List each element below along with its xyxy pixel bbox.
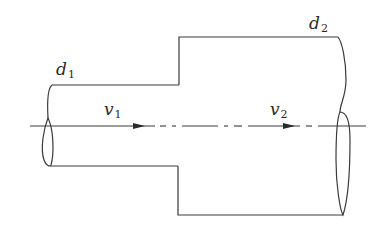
- v1-arrowhead-icon: [133, 123, 145, 129]
- label-d1-symbol: d: [56, 59, 67, 79]
- large-pipe-break-line: [338, 37, 346, 112]
- expansion-step-bottom: [178, 166, 343, 215]
- label-v1-subscript: 1: [115, 108, 122, 121]
- expansion-step-top: [179, 37, 338, 85]
- label-v2: v2: [270, 101, 288, 120]
- large-pipe-end-ellipse: [336, 112, 350, 215]
- label-v1: v1: [104, 101, 122, 120]
- label-v2-symbol: v: [270, 99, 280, 119]
- label-d1-subscript: 1: [68, 68, 75, 81]
- label-d2-symbol: d: [309, 13, 320, 33]
- label-d1: d1: [56, 61, 75, 80]
- v2-arrowhead-icon: [283, 123, 295, 129]
- pipe-expansion-diagram: [0, 0, 386, 245]
- label-d2-subscript: 2: [321, 22, 328, 35]
- label-v1-symbol: v: [104, 99, 114, 119]
- label-d2: d2: [309, 15, 328, 34]
- small-pipe-end-ellipse: [42, 118, 53, 166]
- small-pipe-break-line: [48, 85, 52, 118]
- label-v2-subscript: 2: [281, 108, 288, 121]
